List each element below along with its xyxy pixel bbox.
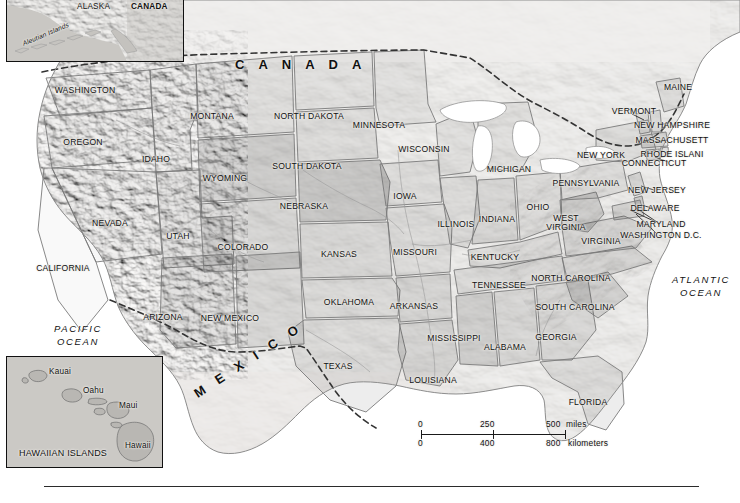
scale-km-tick-800: 800 — [546, 439, 561, 447]
state-label-minnesota: MINNESOTA — [353, 121, 405, 130]
scale-km-tick-0: 0 — [418, 439, 423, 447]
state-label-kentucky: KENTUCKY — [471, 253, 519, 262]
scale-miles-tick-0: 0 — [418, 420, 423, 428]
state-label-mississippi: MISSISSIPPI — [427, 334, 480, 343]
state-label-utah: UTAH — [166, 232, 190, 241]
state-label-montana: MONTANA — [190, 112, 234, 121]
state-label-maine: MAINE — [664, 83, 692, 92]
state-label-connecticut: CONNECTICUT — [622, 159, 687, 168]
scale-bar: 0 250 500 miles 0 400 800 kilometers — [418, 420, 598, 454]
island-lanai — [94, 408, 105, 415]
state-label-tennessee: TENNESSEE — [472, 281, 526, 290]
state-label-nebraska: NEBRASKA — [280, 202, 328, 211]
state-label-indiana: INDIANA — [479, 215, 515, 224]
state-label-wyoming: WYOMING — [203, 174, 247, 183]
alaska-inset-label-canada: CANADA — [131, 3, 168, 11]
state-label-new-york: NEW YORK — [577, 151, 625, 160]
state-label-north-carolina: NORTH CAROLINA — [531, 274, 611, 283]
state-label-vermont: VERMONT — [612, 107, 656, 116]
state-label-arkansas: ARKANSAS — [390, 302, 438, 311]
state-label-maryland: MARYLAND — [636, 220, 685, 229]
island-molokai — [88, 398, 107, 405]
state-label-missouri: MISSOURI — [393, 248, 437, 257]
scale-tick-right — [565, 430, 566, 439]
state-label-nevada: NEVADA — [92, 219, 128, 228]
state-label-wisconsin: WISCONSIN — [398, 145, 449, 154]
state-label-oregon: OREGON — [63, 138, 102, 147]
state-label-idaho: IDAHO — [142, 155, 170, 164]
state-label-new-jersey: NEW JERSEY — [628, 186, 686, 195]
alaska-inset: ALASKA CANADA Aleutian Islands — [6, 0, 184, 62]
state-label-new-hampshire: NEW HAMPSHIRE — [634, 121, 710, 130]
state-label-west-virginia-line2: VIRGINIA — [546, 223, 585, 232]
state-label-california: CALIFORNIA — [36, 264, 90, 273]
scale-miles-unit: miles — [566, 420, 587, 428]
state-label-south-carolina: SOUTH CAROLINA — [535, 303, 614, 312]
state-label-washington: WASHINGTON — [55, 86, 116, 95]
alaska-inset-label-alaska: ALASKA — [77, 3, 110, 11]
state-label-iowa: IOWA — [393, 192, 416, 201]
state-label-south-dakota: SOUTH DAKOTA — [272, 162, 342, 171]
state-label-texas: TEXAS — [323, 362, 352, 371]
state-label-massachusett: MASSACHUSETT — [635, 136, 708, 145]
hawaii-inset-label-oahu: Oahu — [83, 387, 104, 395]
state-label-georgia: GEORGIA — [535, 333, 577, 342]
scale-miles-tick-250: 250 — [480, 420, 495, 428]
bottom-divider — [44, 486, 699, 487]
state-label-new-mexico: NEW MEXICO — [201, 314, 259, 323]
state-label-alabama: ALABAMA — [484, 343, 526, 352]
state-label-washington-d-c-: WASHINGTON D.C. — [620, 231, 701, 240]
state-label-louisiana: LOUISIANA — [409, 376, 457, 385]
scale-km-tick-400: 400 — [480, 439, 495, 447]
island-kauai — [29, 370, 47, 381]
hawaii-inset-label-hawaiian-islands: HAWAIIAN ISLANDS — [19, 449, 107, 458]
state-label-ohio: OHIO — [527, 203, 550, 212]
state-label-oklahoma: OKLAHOMA — [324, 298, 374, 307]
scale-km-unit: kilometers — [568, 439, 608, 447]
state-label-west-virginia: WESTVIRGINIA — [546, 214, 585, 231]
state-label-arizona: ARIZONA — [143, 313, 183, 322]
state-label-colorado: COLORADO — [218, 243, 269, 252]
island-kahoolawe — [111, 422, 122, 428]
state-label-virginia: VIRGINIA — [581, 237, 620, 246]
state-label-delaware: DELAWARE — [630, 204, 679, 213]
state-label-michigan: MICHIGAN — [487, 165, 532, 174]
hawaii-inset-label-maui: Maui — [119, 402, 138, 410]
island-oahu — [62, 389, 82, 402]
state-label-north-dakota: NORTH DAKOTA — [274, 112, 344, 121]
state-label-illinois: ILLINOIS — [438, 220, 475, 229]
hawaii-inset-label-hawaii: Hawaii — [125, 442, 151, 450]
scale-miles-tick-500: 500 — [546, 420, 561, 428]
state-label-kansas: KANSAS — [321, 250, 357, 259]
state-label-pennsylvania: PENNSYLVANIA — [552, 179, 619, 188]
state-label-florida: FLORIDA — [569, 398, 608, 407]
hawaii-inset: Kauai Oahu Maui Hawaii HAWAIIAN ISLANDS — [6, 356, 163, 468]
hawaii-inset-label-kauai: Kauai — [49, 368, 71, 376]
island-niihau — [22, 378, 28, 383]
us-reference-map: CANADA MEXICO PACIFIC OCEAN ATLANTIC OCE… — [0, 0, 740, 503]
